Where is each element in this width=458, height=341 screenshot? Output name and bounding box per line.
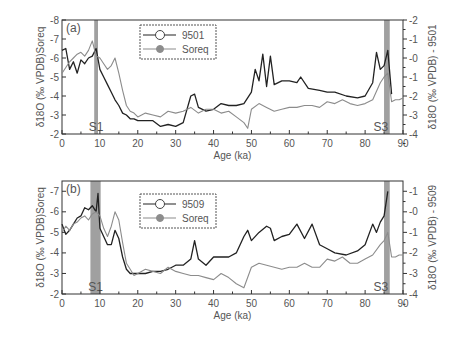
chart-panel-a: S1S30102030405060708090Age (ka)-8-7-6-5-… [35,15,438,162]
y-left-tick-label: -5 [50,227,59,238]
y-right-axis-label: δ18O (‰ VPDB) - 9509 [427,185,438,290]
y-left-tick-label: -7 [50,186,59,197]
y-right-tick-label: -1 [409,34,418,45]
y-left-tick-label: -2 [50,129,59,140]
x-tick-label: 70 [322,138,334,149]
y-left-tick-label: -2 [50,289,59,300]
band-label: S3 [374,120,389,134]
band-label: S3 [374,280,389,294]
plot-frame [62,20,403,134]
x-axis-label: Age (ka) [214,310,252,321]
x-tick-label: 50 [246,298,258,309]
chart-panel-b: S1S30102030405060708090Age (ka)-7-6-5-4-… [35,181,438,321]
series-line-soreq [62,212,403,288]
y-left-tick-label: -4 [50,247,59,258]
x-tick-label: 60 [284,298,296,309]
x-tick-label: 20 [132,138,144,149]
y-right-tick-label: -3 [409,110,418,121]
legend-label: 9509 [182,199,205,210]
x-tick-label: 10 [94,298,106,309]
x-tick-label: 30 [170,298,182,309]
y-right-axis-label: δ18O (‰ VPDB) - 9501 [427,24,438,129]
band-label: S1 [88,280,103,294]
shaded-band-s3 [384,20,390,134]
shaded-band-s1 [90,181,100,294]
x-tick-label: 50 [246,138,258,149]
x-tick-label: 30 [170,138,182,149]
legend: 9509Soreq [140,194,216,228]
y-right-tick-label: -0 [409,53,418,64]
chart-canvas: S1S30102030405060708090Age (ka)-8-7-6-5-… [0,0,458,341]
y-right-tick-label: -1 [409,227,418,238]
legend: 9501Soreq [140,25,216,59]
y-left-tick-label: -4 [50,91,59,102]
y-right-tick-label: -1 [409,72,418,83]
x-tick-label: 80 [360,138,372,149]
x-axis-label: Age (ka) [214,150,252,161]
y-right-tick-label: -2 [409,15,418,26]
band-label: S1 [89,120,104,134]
legend-open-circle-icon [156,200,165,209]
x-tick-label: 0 [59,298,65,309]
legend-open-circle-icon [156,31,165,40]
y-right-tick-label: -1 [409,186,418,197]
legend-label: Soreq [182,213,209,224]
y-right-tick-label: -2 [409,247,418,258]
y-left-tick-label: -8 [50,15,59,26]
y-left-axis-label: δ18O (‰ VPDB)Soreq [35,187,46,288]
x-tick-label: 0 [59,138,65,149]
x-tick-label: 20 [132,298,144,309]
legend-label: Soreq [182,44,209,55]
x-tick-label: 40 [208,138,220,149]
y-right-tick-label: -4 [409,129,418,140]
x-tick-label: 70 [322,298,334,309]
y-right-tick-label: -2 [409,91,418,102]
y-right-tick-label: -0 [409,206,418,217]
x-tick-label: 60 [284,138,296,149]
y-left-tick-label: -7 [50,34,59,45]
x-tick-label: 90 [397,298,409,309]
legend-filled-circle-icon [157,46,164,53]
y-left-tick-label: -3 [50,110,59,121]
y-right-tick-label: -4 [409,289,418,300]
series-line-9509 [62,191,388,273]
y-right-tick-label: -3 [409,268,418,279]
series-line-9501 [62,49,392,127]
y-left-axis-label: δ18O (‰ VPDB)Soreq [35,27,46,128]
legend-filled-circle-icon [157,215,164,222]
panel-label: (a) [66,21,81,35]
y-left-tick-label: -6 [50,53,59,64]
series-line-soreq [62,41,403,128]
y-left-tick-label: -5 [50,72,59,83]
x-tick-label: 10 [94,138,106,149]
shaded-band-s1 [94,20,98,134]
x-tick-label: 40 [208,298,220,309]
y-left-tick-label: -3 [50,268,59,279]
x-tick-label: 80 [360,298,372,309]
legend-label: 9501 [182,30,205,41]
y-left-tick-label: -6 [50,206,59,217]
panel-label: (b) [66,182,81,196]
